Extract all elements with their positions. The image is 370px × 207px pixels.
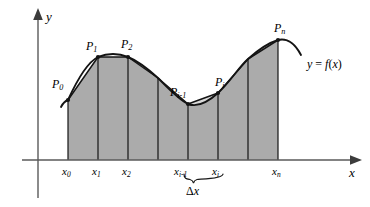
x-axis-label: x	[349, 166, 355, 179]
trapezoidal-rule-figure: y x y = f(x) P0 P1 P2 Pi-1 Pi Pn x0 x1 x…	[0, 0, 370, 207]
delta-x-label: Δx	[186, 185, 199, 197]
y-axis-label: y	[46, 10, 52, 23]
x-tick-label-x0-sub: 0	[67, 170, 71, 179]
point-label-p2-sub: 2	[128, 43, 132, 52]
x-tick-label-xn: xn	[272, 166, 281, 179]
point-label-pi-1: Pi-1	[170, 86, 186, 100]
point-label-pn: Pn	[274, 22, 285, 36]
point-label-pi: Pi	[215, 76, 225, 90]
function-label-close: )	[338, 57, 342, 71]
point-label-p0: P0	[52, 78, 63, 92]
point-label-p1-sub: 1	[93, 45, 97, 54]
node-dot-p0	[66, 98, 70, 102]
x-tick-label-xn-sub: n	[277, 170, 281, 179]
node-dot-pn	[276, 38, 280, 42]
y-axis-arrowhead	[33, 8, 43, 20]
x-tick-label-x1: x1	[92, 166, 101, 179]
node-dot-pi-1	[186, 102, 190, 106]
x-axis-arrowhead	[350, 155, 362, 165]
point-label-p2: P2	[121, 38, 132, 52]
x-tick-label-xi-1-sub: i-1	[179, 170, 187, 179]
point-label-pn-sub: n	[281, 27, 285, 36]
node-dot-pi	[216, 91, 220, 95]
node-dot-p2	[126, 55, 130, 59]
x-tick-label-x2: x2	[122, 166, 131, 179]
x-tick-label-x0: x0	[62, 166, 71, 179]
delta-x-label-var: x	[194, 184, 199, 198]
x-tick-label-x2-sub: 2	[127, 170, 131, 179]
point-label-p1: P1	[86, 40, 97, 54]
delta-x-label-delta: Δ	[186, 184, 194, 198]
x-tick-label-xi-sub: i	[217, 170, 219, 179]
point-label-pi-sub: i	[222, 81, 224, 90]
function-label: y = f(x)	[307, 58, 342, 70]
node-dot-p1	[96, 55, 100, 59]
x-tick-label-x1-sub: 1	[97, 170, 101, 179]
x-tick-label-xi-1: xi-1	[174, 166, 187, 179]
x-tick-label-xi: xi	[212, 166, 219, 179]
point-label-p0-sub: 0	[59, 83, 63, 92]
point-label-pi-1-sub: i-1	[177, 91, 186, 100]
